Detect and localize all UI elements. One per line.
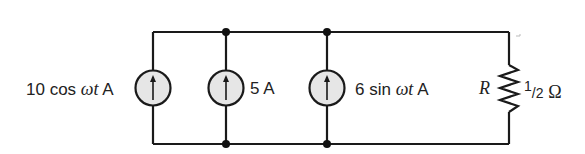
node-dot [323, 140, 331, 148]
resistor-unit: Ω [548, 82, 561, 102]
resistor-icon [500, 65, 518, 112]
node-dot [323, 28, 331, 36]
source-3-value: 6 sin [355, 80, 396, 99]
source-3-variable: ωt [396, 79, 414, 99]
source-1-value: 10 cos [26, 80, 81, 99]
resistor-value-numerator: 1 [524, 78, 532, 94]
current-source-1 [136, 71, 171, 106]
circuit-schematic [0, 0, 585, 154]
current-source-3 [310, 71, 345, 106]
source-1-variable: ωt [81, 79, 99, 99]
circuit-diagram: 10 cos ωt A 5 A 6 sin ωt A R 1/2 Ω [0, 0, 585, 154]
source-3-label: 6 sin ωt A [355, 80, 428, 98]
resistor-symbol: R [479, 79, 490, 97]
node-dot [222, 140, 230, 148]
node-dot [222, 28, 230, 36]
source-3-unit: A [413, 80, 428, 99]
current-source-2 [209, 71, 244, 106]
source-2-label: 5 A [250, 80, 275, 97]
resistor-value: 1/2 Ω [524, 79, 562, 101]
source-1-label: 10 cos ωt A [26, 80, 114, 98]
source-1-unit: A [99, 80, 114, 99]
